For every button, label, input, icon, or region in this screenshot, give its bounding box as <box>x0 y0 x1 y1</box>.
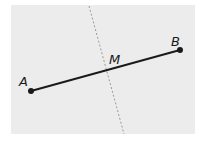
label-a: A <box>19 75 28 88</box>
label-m: M <box>109 53 120 66</box>
label-b: B <box>171 35 180 48</box>
point-a <box>28 88 34 94</box>
diagram-canvas <box>0 0 201 144</box>
segment-ab <box>31 50 180 91</box>
